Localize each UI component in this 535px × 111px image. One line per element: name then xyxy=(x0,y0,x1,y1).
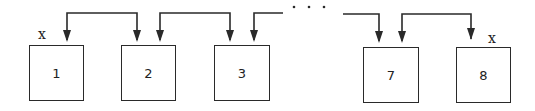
node-label: 1 xyxy=(52,66,60,81)
arrow-into-3 xyxy=(250,13,283,42)
node-label: 3 xyxy=(238,66,246,81)
marker-x-right: x xyxy=(488,31,496,45)
arrow-2-3 xyxy=(156,13,234,42)
node-label: 8 xyxy=(479,68,487,83)
node-8: 8 xyxy=(456,47,511,103)
node-label: 2 xyxy=(144,66,152,81)
arrow-into-7 xyxy=(343,14,383,43)
node-7: 7 xyxy=(363,47,419,103)
node-2: 2 xyxy=(121,45,176,101)
arrow-7-8 xyxy=(398,14,475,43)
arrow-1-2 xyxy=(63,13,141,42)
ellipsis-dots xyxy=(293,6,326,9)
node-1: 1 xyxy=(29,45,84,101)
marker-x-left: x xyxy=(38,27,46,41)
linked-boxes-diagram: x x 1 2 3 7 8 xyxy=(0,0,535,111)
node-label: 7 xyxy=(387,68,395,83)
node-3: 3 xyxy=(214,45,270,101)
